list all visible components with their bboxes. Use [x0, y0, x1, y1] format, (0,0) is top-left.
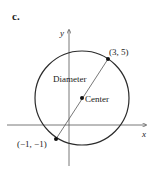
point-neg1-neg1 — [54, 137, 58, 141]
circle-diameter-diagram: c. x y (3, 5) (−1, −1) Diameter Center — [0, 0, 156, 182]
point-neg1-neg1-label: (−1, −1) — [17, 139, 47, 149]
point-3-5-label: (3, 5) — [109, 47, 129, 57]
point-3-5 — [106, 57, 110, 61]
center-label: Center — [85, 94, 109, 104]
y-axis-label: y — [59, 28, 64, 38]
part-label: c. — [12, 10, 20, 22]
diameter-label: Diameter — [53, 74, 86, 84]
x-axis-label: x — [141, 129, 146, 139]
center-point — [80, 96, 84, 100]
